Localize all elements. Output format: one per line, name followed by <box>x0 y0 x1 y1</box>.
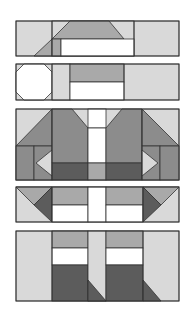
block-5 <box>16 231 179 301</box>
block-4 <box>16 187 179 222</box>
block-3 <box>16 109 179 180</box>
block-2 <box>16 64 179 100</box>
quilt-diagram <box>0 0 190 321</box>
block-1 <box>16 21 179 56</box>
